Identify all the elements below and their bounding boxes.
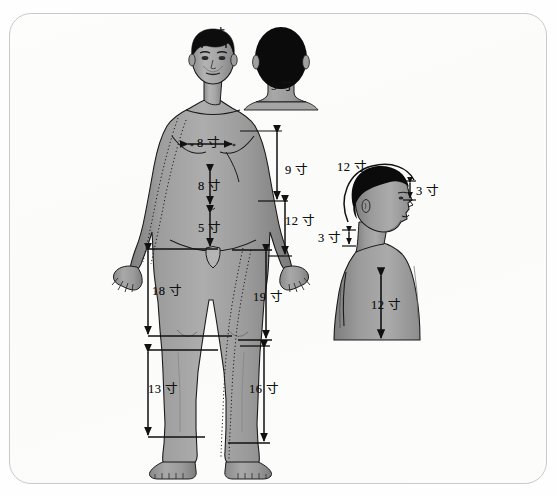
front-foot-right <box>225 462 272 479</box>
measurement-label-nape-3: 3 寸 <box>318 232 342 245</box>
back-head-view <box>244 27 318 110</box>
measurement-label-back-12: 12 寸 <box>371 299 401 312</box>
front-body-silhouette <box>130 96 292 467</box>
front-eye-left <box>202 56 209 60</box>
measurement-label-leg-left-13: 13 寸 <box>148 383 178 396</box>
back-shoulder <box>244 102 318 110</box>
measurement-label-thigh-left-18: 18 寸 <box>152 285 182 298</box>
measurement-label-epigastric-8: 8 寸 <box>198 180 222 193</box>
side-eye <box>399 196 404 199</box>
measurement-label-elbow-wrist-12: 12 寸 <box>285 215 315 228</box>
measurement-label-chest-width-8: 8 寸 <box>197 137 221 150</box>
measurement-label-head-arc-12: 12 寸 <box>337 161 367 174</box>
diagram-page: 9 寸 9 寸 8 寸 8 寸 5 寸 9 寸 12 寸 18 寸 19 寸 1… <box>0 0 558 497</box>
front-nipple-right <box>232 144 235 147</box>
measurement-label-head-front-9: 9 寸 <box>203 27 227 41</box>
measurement-label-neck-back-9: 9 寸 <box>271 80 295 93</box>
measurement-label-thigh-right-19: 19 寸 <box>253 291 283 304</box>
measurement-label-lower-abdomen-5: 5 寸 <box>198 222 222 235</box>
front-ear-right <box>231 54 237 66</box>
measurement-label-forehead-3: 3 寸 <box>416 185 440 198</box>
back-ear-right <box>303 55 310 69</box>
side-torso <box>334 242 420 340</box>
front-foot-left <box>149 462 196 479</box>
front-eye-right <box>219 56 226 60</box>
front-ear-left <box>189 54 195 66</box>
measurement-label-axilla-elbow-9: 9 寸 <box>285 164 309 177</box>
measurement-label-leg-right-16: 16 寸 <box>249 383 279 396</box>
body-diagram-svg <box>0 0 558 497</box>
back-ear-left <box>253 55 260 69</box>
side-profile-view <box>334 166 420 340</box>
